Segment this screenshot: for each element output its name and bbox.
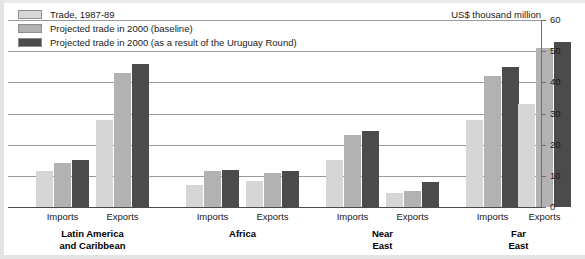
y-tick-mark-40 (542, 82, 546, 83)
y-tick-label-10: 10 (550, 171, 561, 181)
y-tick-mark-0 (542, 207, 546, 208)
axis-sublabel-imports: Imports (197, 211, 229, 222)
bar (554, 42, 571, 207)
axis-sublabel-imports: Imports (477, 211, 509, 222)
bar (246, 181, 263, 207)
axis-sublabel-exports: Exports (106, 211, 138, 222)
bar-chart: Trade, 1987-89 Projected trade in 2000 (… (0, 0, 585, 259)
legend-label: Projected trade in 2000 (as a result of … (50, 37, 297, 48)
bar (222, 170, 239, 207)
frame-top-edge (0, 0, 585, 3)
group-label: Africa (229, 228, 256, 240)
legend-label: Projected trade in 2000 (baseline) (50, 23, 193, 34)
axis-sublabel-exports: Exports (528, 211, 560, 222)
chart-legend: Trade, 1987-89 Projected trade in 2000 (… (18, 8, 348, 50)
y-tick-label-20: 20 (550, 140, 561, 150)
bar (186, 185, 203, 207)
bar (518, 104, 535, 207)
bar (404, 191, 421, 207)
axis-sublabel-imports: Imports (337, 211, 369, 222)
gridline-30 (8, 114, 541, 115)
y-tick-label-40: 40 (550, 78, 561, 88)
axis-sublabel-exports: Exports (256, 211, 288, 222)
bar (344, 135, 361, 207)
bar (204, 171, 221, 207)
bar (422, 182, 439, 207)
group-label: Latin Americaand Caribbean (60, 228, 126, 252)
bar (72, 160, 89, 207)
bar (36, 171, 53, 207)
legend-item: Projected trade in 2000 (baseline) (18, 22, 348, 35)
bar (114, 73, 131, 207)
frame-bottom-edge (0, 255, 585, 259)
axis-sublabel-imports: Imports (47, 211, 79, 222)
y-tick-mark-50 (542, 51, 546, 52)
y-tick-mark-60 (542, 20, 546, 21)
y-tick-label-30: 30 (550, 109, 561, 119)
legend-swatch-trade-1987-89 (18, 10, 42, 19)
bar (536, 48, 553, 207)
legend-item: Projected trade in 2000 (as a result of … (18, 36, 348, 49)
bar (386, 193, 403, 207)
legend-swatch-projected-baseline (18, 24, 42, 33)
legend-swatch-projected-uruguay (18, 38, 42, 47)
group-label-line1: Near (372, 228, 393, 240)
bar (96, 120, 113, 207)
bar (502, 67, 519, 207)
group-label: NearEast (372, 228, 393, 252)
bar (54, 163, 71, 207)
y-tick-mark-10 (542, 176, 546, 177)
y-tick-mark-30 (542, 114, 546, 115)
legend-label: Trade, 1987-89 (50, 9, 115, 20)
group-label-line1: Africa (229, 228, 256, 240)
group-label-line2: and Caribbean (60, 240, 126, 252)
gridline-40 (8, 82, 541, 83)
y-tick-mark-20 (542, 145, 546, 146)
gridline-50 (8, 51, 541, 52)
bar (264, 173, 281, 207)
bar (132, 64, 149, 207)
bar (326, 160, 343, 207)
y-tick-label-60: 60 (550, 15, 561, 25)
group-label-line2: East (372, 240, 393, 252)
units-caption: US$ thousand million (451, 9, 541, 20)
bar (282, 171, 299, 207)
axis-sublabel-exports: Exports (396, 211, 428, 222)
group-label-line1: Latin America (60, 228, 126, 240)
gridline-20 (8, 145, 541, 146)
y-tick-label-50: 50 (550, 46, 561, 56)
group-label-line1: Far (508, 228, 528, 240)
bar (484, 76, 501, 207)
bar (362, 131, 379, 207)
bar (466, 120, 483, 207)
group-label: FarEast (508, 228, 528, 252)
frame-left-edge (0, 0, 4, 259)
x-axis-baseline (8, 207, 542, 208)
group-label-line2: East (508, 240, 528, 252)
legend-item: Trade, 1987-89 (18, 8, 348, 21)
